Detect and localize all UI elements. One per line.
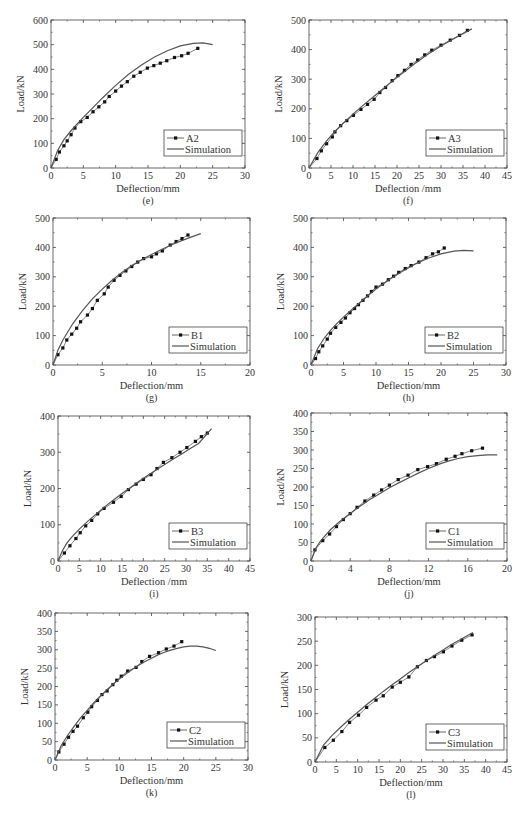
x-tick-label: 20 (436, 367, 446, 378)
y-tick-label: 350 (293, 426, 308, 437)
legend-marker-icon (435, 333, 438, 336)
legend-marker-icon (179, 529, 182, 532)
panel-caption: (h) (403, 392, 415, 404)
test-curve-c2 (55, 642, 182, 760)
x-tick-label: 12 (424, 563, 434, 574)
data-marker (91, 307, 94, 310)
x-tick-label: 30 (436, 170, 446, 181)
chart-e: 0510152025300100200300400500600Deflectio… (15, 15, 250, 208)
x-tick-label: 5 (329, 170, 334, 181)
data-marker (437, 250, 440, 253)
data-marker (159, 62, 162, 65)
y-tick-label: 600 (33, 15, 48, 26)
x-tick-label: 30 (438, 764, 448, 775)
load-deflection-charts: 0510152025300100200300400500600Deflectio… (0, 0, 526, 816)
y-tick-label: 300 (33, 89, 48, 100)
x-tick-label: 10 (114, 762, 124, 773)
y-tick-label: 400 (35, 242, 50, 253)
data-marker (103, 292, 106, 295)
data-marker (75, 327, 78, 330)
panel-caption: (g) (146, 392, 158, 404)
figure-grid: 0510152025300100200300400500600Deflectio… (0, 0, 526, 816)
x-tick-label: 15 (370, 170, 380, 181)
x-tick-label: 10 (111, 170, 121, 181)
y-axis-label: Load/kN (15, 75, 26, 113)
y-tick-label: 0 (43, 163, 48, 174)
x-tick-label: 0 (309, 563, 314, 574)
y-tick-label: 350 (37, 626, 52, 637)
data-marker (97, 105, 100, 108)
data-marker (315, 157, 318, 160)
y-tick-label: 250 (297, 636, 312, 647)
legend-label-test: B3 (191, 526, 203, 537)
x-tick-label: 10 (348, 170, 358, 181)
x-tick-label: 25 (208, 170, 218, 181)
legend-label-simulation: Simulation (447, 537, 494, 548)
x-axis-label: Deflection/mm (377, 380, 441, 391)
y-tick-label: 0 (47, 755, 52, 766)
data-marker (172, 644, 175, 647)
x-tick-label: 15 (196, 367, 206, 378)
legend: C3Simulation (426, 724, 504, 750)
data-marker (380, 488, 383, 491)
data-marker (69, 133, 72, 136)
chart-i: 0510152025303540450100200300400Deflectio… (22, 411, 255, 601)
x-tick-label: 30 (181, 563, 191, 574)
y-tick-label: 0 (303, 360, 308, 371)
data-marker (180, 640, 183, 643)
legend: C1Simulation (426, 523, 504, 549)
x-tick-label: 10 (371, 367, 381, 378)
data-marker (66, 139, 69, 142)
y-tick-label: 300 (35, 271, 50, 282)
data-marker (126, 80, 129, 83)
chart-l: 051015202530354045050100150200250300Defl… (279, 612, 512, 802)
data-marker (148, 655, 151, 658)
x-tick-label: 20 (138, 563, 148, 574)
x-tick-label: 5 (81, 170, 86, 181)
x-axis-label: Deflection/mm (120, 775, 184, 786)
y-tick-label: 200 (297, 660, 312, 671)
y-tick-label: 400 (33, 64, 48, 75)
data-marker (382, 694, 385, 697)
y-tick-label: 0 (303, 556, 308, 567)
legend-label-simulation: Simulation (190, 341, 237, 352)
y-tick-label: 500 (291, 15, 306, 26)
data-marker (76, 725, 79, 728)
data-marker (388, 484, 391, 487)
data-marker (74, 537, 77, 540)
data-marker (173, 56, 176, 59)
x-tick-label: 35 (459, 764, 469, 775)
data-marker (65, 338, 68, 341)
legend-label-simulation: Simulation (185, 144, 232, 155)
panel-caption: (i) (149, 588, 158, 600)
legend-label-simulation: Simulation (447, 144, 494, 155)
data-marker (58, 150, 61, 153)
legend-label-simulation: Simulation (446, 341, 493, 352)
data-marker (180, 54, 183, 57)
data-marker (68, 544, 71, 547)
chart-h: 0510152025300100200300400500Deflection/m… (275, 213, 511, 405)
data-marker (96, 299, 99, 302)
legend-marker-icon (179, 333, 182, 336)
data-marker (178, 451, 181, 454)
x-tick-label: 0 (307, 170, 312, 181)
y-tick-label: 300 (40, 447, 55, 458)
y-tick-label: 500 (33, 39, 48, 50)
x-tick-label: 45 (245, 563, 255, 574)
y-axis-label: Load/kN (273, 75, 284, 113)
chart-f: 0510152025303540450100200300400500Deflec… (273, 15, 512, 208)
y-tick-label: 50 (298, 537, 308, 548)
legend-label-test: B1 (191, 330, 203, 341)
x-tick-label: 40 (224, 563, 234, 574)
y-axis-label: Load/kN (279, 670, 290, 708)
data-marker (139, 71, 142, 74)
chart-g: 051015200100200300400500Deflection/mmLoa… (17, 213, 255, 405)
y-tick-label: 250 (37, 663, 52, 674)
data-marker (348, 721, 351, 724)
test-curve-b1 (53, 235, 188, 365)
data-marker (453, 455, 456, 458)
y-tick-label: 50 (302, 732, 312, 743)
data-marker (332, 739, 335, 742)
x-tick-label: 35 (202, 563, 212, 574)
y-tick-label: 100 (40, 519, 55, 530)
